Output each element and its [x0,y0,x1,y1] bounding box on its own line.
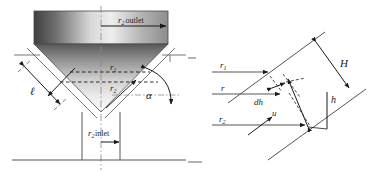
dh-dashed-edge-upper [270,76,282,92]
label-r2-right: r2 [219,114,226,125]
label-r1-right: r1 [220,60,227,71]
label-r2-inlet-word: inlet [95,129,110,138]
label-r-right: r [221,83,225,93]
label-H: H [339,57,349,69]
ell-witness-tick-top [18,60,31,72]
h-witness-dashed-bottom [289,93,310,126]
label-r2-outlet-word: outlet [126,16,145,25]
label-u: u [272,108,277,118]
dh-dimension-arrow [272,83,285,88]
technical-diagram-figure: r2outlet r1 r2 ℓ [0,0,379,180]
label-r2-inlet: r2inlet [88,128,110,139]
label-dh: dh [254,97,264,107]
u-velocity-arrow [248,117,272,135]
label-ell: ℓ [30,85,35,97]
label-h: h [331,94,336,105]
h-dimension-arrow [288,79,308,127]
right-diagram-group: r1 r r2 u dh h [188,32,366,162]
label-alpha: α [146,89,152,101]
dh-dashed-edge-lower [283,74,300,97]
left-diagram-group: r2outlet r1 r2 ℓ [12,6,186,170]
upper-inclined-wall [228,32,325,103]
diagram-canvas: r2outlet r1 r2 ℓ [0,0,379,180]
